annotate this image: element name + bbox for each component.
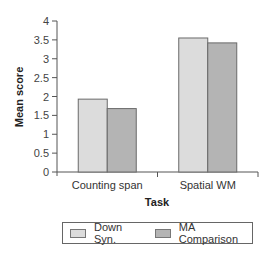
bar — [208, 43, 237, 172]
legend-label: MA Comparison — [179, 221, 252, 245]
y-tick-label: 4 — [43, 15, 49, 27]
x-axis: Counting spanSpatial WM — [57, 172, 258, 191]
y-tick-label: 1 — [43, 128, 49, 140]
bar — [179, 38, 208, 172]
legend-item-ma-comparison: MA Comparison — [155, 221, 252, 245]
legend-swatch-ma-comparison — [155, 229, 171, 238]
bar — [107, 109, 136, 172]
y-tick-label: 2 — [43, 91, 49, 103]
x-category-label: Counting span — [72, 179, 143, 191]
y-tick-label: 1.5 — [34, 109, 49, 121]
bars — [78, 38, 237, 172]
bar-chart: 00.511.522.533.54 Counting spanSpatial W… — [0, 0, 272, 255]
y-tick-label: 3.5 — [34, 34, 49, 46]
legend-item-down-syn: Down Syn. — [70, 221, 144, 245]
y-tick-label: 2.5 — [34, 72, 49, 84]
legend-label: Down Syn. — [94, 221, 144, 245]
y-tick-label: 3 — [43, 53, 49, 65]
y-tick-label: 0 — [43, 166, 49, 178]
y-axis: 00.511.522.533.54 — [34, 15, 57, 178]
y-tick-label: 0.5 — [34, 147, 49, 159]
bar — [78, 99, 107, 172]
legend-swatch-down-syn — [70, 229, 86, 238]
x-category-label: Spatial WM — [180, 179, 236, 191]
legend: Down Syn. MA Comparison — [62, 222, 253, 244]
x-axis-title: Task — [145, 196, 170, 208]
y-axis-title: Mean score — [13, 67, 25, 128]
